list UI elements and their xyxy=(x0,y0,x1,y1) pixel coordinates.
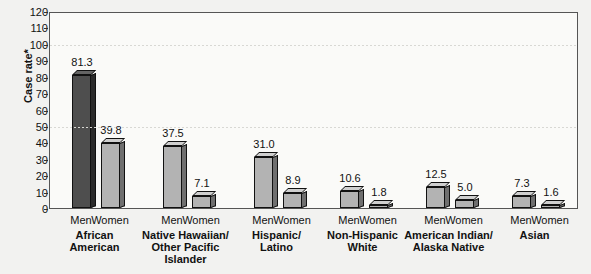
y-tick-mark xyxy=(44,94,48,95)
x-tick-label-women: Women xyxy=(442,214,486,226)
y-tick-label: 90 xyxy=(14,56,48,66)
bar-front-face xyxy=(254,157,273,208)
bar-front-face xyxy=(163,146,182,208)
y-tick-label: 50 xyxy=(14,122,48,132)
bar-value-label: 39.8 xyxy=(94,124,128,136)
bar-front-face xyxy=(512,196,531,208)
bar-front-face xyxy=(283,193,302,208)
y-tick-label: 70 xyxy=(14,89,48,99)
bar-value-label: 8.9 xyxy=(276,174,310,186)
gridline xyxy=(50,127,577,128)
plot-area: 81.339.837.57.131.08.910.61.812.55.07.31… xyxy=(49,12,578,209)
bar-front-face xyxy=(369,205,388,208)
x-tick-label-women: Women xyxy=(270,214,314,226)
y-tick-label: 120 xyxy=(14,7,48,17)
y-tick-label: 100 xyxy=(14,40,48,50)
bar xyxy=(283,193,302,208)
bar-side-face xyxy=(120,141,125,208)
bar-value-label: 1.8 xyxy=(362,186,396,198)
group-label: Asian xyxy=(465,229,591,241)
bar xyxy=(512,196,531,208)
bar-front-face xyxy=(72,75,91,208)
x-tick-label-women: Women xyxy=(528,214,572,226)
bar-front-face xyxy=(192,196,211,208)
bar-side-face xyxy=(182,144,187,208)
bar xyxy=(192,196,211,208)
bar-front-face xyxy=(455,200,474,208)
x-tick-label-women: Women xyxy=(179,214,223,226)
gridline xyxy=(50,45,577,46)
bar-side-face xyxy=(211,194,216,208)
y-tick-mark xyxy=(44,127,48,128)
bar-front-face xyxy=(426,187,445,208)
y-tick-label: 20 xyxy=(14,171,48,181)
bar xyxy=(340,191,359,208)
y-tick-label: 0 xyxy=(14,204,48,214)
bar-value-label: 12.5 xyxy=(419,168,453,180)
y-tick-label: 10 xyxy=(14,188,48,198)
bar-value-label: 10.6 xyxy=(333,172,367,184)
bars-layer: 81.339.837.57.131.08.910.61.812.55.07.31… xyxy=(50,13,577,208)
y-tick-label: 110 xyxy=(14,23,48,33)
y-tick-mark xyxy=(44,12,48,13)
bar-side-face xyxy=(474,198,479,208)
bar-value-label: 37.5 xyxy=(156,127,190,139)
bar xyxy=(72,75,91,208)
bar-side-face xyxy=(302,191,307,208)
y-tick-label: 30 xyxy=(14,155,48,165)
bar xyxy=(369,205,388,208)
bar xyxy=(163,146,182,208)
y-tick-mark xyxy=(44,143,48,144)
y-tick-label: 40 xyxy=(14,138,48,148)
y-tick-mark xyxy=(44,209,48,210)
y-tick-mark xyxy=(44,193,48,194)
bar-value-label: 81.3 xyxy=(65,56,99,68)
x-tick-label-women: Women xyxy=(356,214,400,226)
y-tick-mark xyxy=(44,160,48,161)
bar xyxy=(101,143,120,208)
y-tick-mark xyxy=(44,61,48,62)
bar xyxy=(541,205,560,208)
bar-chart: Case rate* 1201101009080706050403020100 … xyxy=(0,0,591,274)
bar-value-label: 5.0 xyxy=(448,181,482,193)
y-tick-label: 80 xyxy=(14,73,48,83)
x-tick-label-women: Women xyxy=(88,214,132,226)
y-tick-mark xyxy=(44,78,48,79)
bar-value-label: 7.1 xyxy=(185,177,219,189)
bar-front-face xyxy=(101,143,120,208)
bar-value-label: 1.6 xyxy=(534,186,568,198)
bar-front-face xyxy=(541,205,560,208)
bar xyxy=(254,157,273,208)
y-tick-label: 60 xyxy=(14,106,48,116)
y-tick-mark xyxy=(44,111,48,112)
bar-value-label: 31.0 xyxy=(247,138,281,150)
bar-side-face xyxy=(91,73,96,208)
bar xyxy=(426,187,445,208)
y-tick-mark xyxy=(44,45,48,46)
y-tick-mark xyxy=(44,28,48,29)
bar xyxy=(455,200,474,208)
bar-front-face xyxy=(340,191,359,208)
y-tick-mark xyxy=(44,176,48,177)
